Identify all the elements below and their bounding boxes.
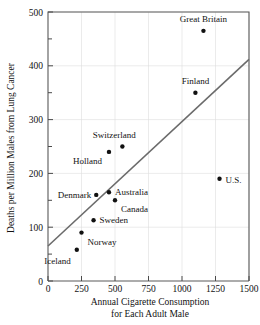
data-point-label: Denmark [58, 190, 92, 200]
data-point-label: Great Britain [180, 14, 228, 24]
y-tick-label: 500 [29, 8, 44, 18]
gridlines [48, 12, 249, 281]
data-point-label: Switzerland [93, 130, 136, 140]
data-point [120, 144, 124, 148]
data-point [113, 198, 117, 202]
data-point [217, 177, 221, 181]
y-tick-label: 200 [29, 169, 44, 179]
data-points [75, 29, 222, 252]
data-point [193, 91, 197, 95]
x-tick-label: 500 [108, 284, 123, 294]
x-tick-label: 250 [74, 284, 89, 294]
x-tick-label: 1500 [240, 284, 259, 294]
point-labels: Great BritainFinlandU.S.SwitzerlandHolla… [44, 14, 241, 266]
data-point-label: Norway [88, 237, 117, 247]
data-point [107, 150, 111, 154]
data-point-label: Australia [115, 187, 148, 197]
x-tick-label: 1000 [173, 284, 192, 294]
x-tick-label: 0 [46, 284, 51, 294]
data-point [94, 193, 98, 197]
data-point [75, 248, 79, 252]
data-point-label: Sweden [100, 215, 129, 225]
x-tick-label: 1250 [206, 284, 225, 294]
x-axis-title-line1: Annual Cigarette Consumption [91, 297, 210, 307]
plot-area: Great BritainFinlandU.S.SwitzerlandHolla… [0, 0, 260, 325]
data-point-label: U.S. [226, 175, 242, 185]
x-axis-title-line2: for Each Adult Male [111, 309, 189, 319]
y-tick-label: 300 [29, 115, 44, 125]
y-axis-title: Deaths per Million Males from Lung Cance… [6, 62, 16, 233]
y-tick-label: 400 [29, 61, 44, 71]
data-point-label: Canada [121, 204, 148, 214]
data-point [201, 29, 205, 33]
data-point [91, 218, 95, 222]
data-point-label: Finland [182, 76, 210, 86]
y-tick-label: 100 [29, 223, 44, 233]
data-point-label: Holland [73, 156, 102, 166]
axis-tick-labels: 01002003004005000250500750100012501500 [29, 8, 259, 295]
y-tick-label: 0 [38, 277, 43, 287]
data-point-label: Iceland [44, 256, 71, 266]
data-point [79, 230, 83, 234]
x-tick-label: 750 [141, 284, 156, 294]
scatter-chart: Great BritainFinlandU.S.SwitzerlandHolla… [0, 0, 260, 325]
data-point [107, 190, 111, 194]
